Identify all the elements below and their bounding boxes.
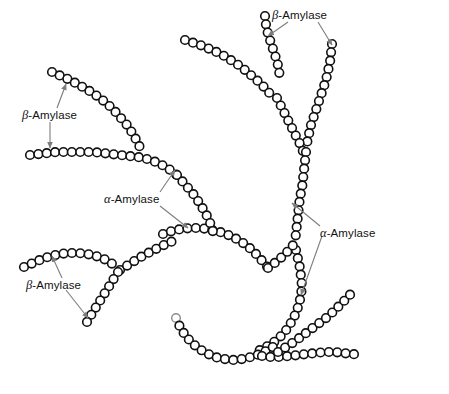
glucose-residue xyxy=(295,198,304,207)
glucose-chain xyxy=(83,268,123,327)
glucose-residue xyxy=(51,251,60,260)
polysaccharide-diagram-svg xyxy=(0,0,449,394)
glucose-residue xyxy=(93,148,102,157)
glucose-residue xyxy=(83,318,92,327)
enzyme-name-text: -Amylase xyxy=(327,227,376,239)
glucose-residue xyxy=(262,20,271,29)
glucose-residue xyxy=(134,153,143,162)
glucose-residue xyxy=(291,351,300,360)
glucose-residue xyxy=(175,225,184,234)
glucose-residue xyxy=(192,224,201,233)
enzyme-pointer-arrow xyxy=(57,84,66,108)
enzyme-label-alpha-amylase: α-Amylase xyxy=(104,192,159,207)
glucose-chain-layer xyxy=(20,12,359,365)
glucose-residue xyxy=(292,223,301,232)
enzyme-name-text: -Amylase xyxy=(32,279,81,291)
glucose-residue xyxy=(68,148,77,157)
glucose-residue xyxy=(237,355,246,364)
glucose-residue xyxy=(300,350,309,359)
glucose-residue xyxy=(101,149,110,158)
glucose-residue xyxy=(296,295,305,304)
glucose-residue xyxy=(341,349,350,358)
glucose-residue xyxy=(291,231,300,240)
glucose-chain xyxy=(181,36,274,97)
glucose-chain xyxy=(291,148,310,240)
glucose-residue xyxy=(76,249,85,258)
glucose-residue xyxy=(59,148,68,157)
glucose-residue xyxy=(26,151,35,160)
glucose-residue xyxy=(324,65,333,74)
glucose-residue xyxy=(108,259,117,268)
glucose-residue xyxy=(308,349,317,358)
glucose-residue xyxy=(167,227,176,236)
glucose-residue xyxy=(299,173,308,182)
glucose-residue xyxy=(51,148,60,157)
glucose-residue xyxy=(300,164,309,173)
glucose-residue xyxy=(301,156,310,165)
glucose-residue xyxy=(307,121,316,130)
glucose-residue xyxy=(265,88,274,97)
glucose-residue xyxy=(346,290,355,299)
glucose-residue xyxy=(167,237,176,246)
glucose-residue xyxy=(34,150,43,159)
glucose-residue xyxy=(42,149,51,158)
glucose-chain xyxy=(20,249,116,272)
glucose-residue xyxy=(333,348,342,357)
greek-symbol: α xyxy=(104,192,111,206)
glucose-residue xyxy=(43,253,52,262)
enzyme-label-beta-amylase: β-Amylase xyxy=(22,108,77,123)
glucose-residue xyxy=(258,352,267,361)
enzyme-pointer-arrow xyxy=(318,22,332,45)
glucose-residue xyxy=(288,241,297,250)
glucose-residue xyxy=(295,262,304,271)
glucose-residue xyxy=(327,48,336,57)
glucose-residue xyxy=(283,352,292,361)
amylase-diagram: β-Amylaseβ-Amylaseα-Amylaseα-Amylaseβ-Am… xyxy=(0,0,449,394)
glucose-chain xyxy=(116,237,176,274)
glucose-residue xyxy=(212,353,221,362)
glucose-chain xyxy=(273,94,307,155)
glucose-residue xyxy=(302,148,311,157)
glucose-residue xyxy=(271,52,280,61)
glucose-residue xyxy=(76,148,85,157)
glucose-chain xyxy=(26,148,181,179)
enzyme-name-text: -Amylase xyxy=(278,9,327,21)
glucose-residue xyxy=(135,142,144,151)
glucose-chain xyxy=(264,241,297,272)
glucose-residue xyxy=(229,356,238,365)
glucose-residue xyxy=(126,152,135,161)
enzyme-label-beta-amylase: β-Amylase xyxy=(272,8,327,23)
enzyme-name-text: -Amylase xyxy=(28,109,77,121)
glucose-residue xyxy=(261,12,270,21)
enzyme-pointer-arrow xyxy=(66,290,88,318)
glucose-residue xyxy=(298,181,307,190)
glucose-residue xyxy=(208,227,217,236)
glucose-residue xyxy=(84,250,93,259)
glucose-residue xyxy=(118,151,127,160)
glucose-residue xyxy=(350,350,359,359)
glucose-residue xyxy=(109,150,118,159)
enzyme-label-alpha-amylase: α-Amylase xyxy=(320,226,375,241)
glucose-residue xyxy=(273,60,282,69)
glucose-residue xyxy=(275,69,284,78)
glucose-residue xyxy=(221,355,230,364)
glucose-residue xyxy=(59,249,68,258)
glucose-residue xyxy=(293,214,302,223)
glucose-residue xyxy=(296,189,305,198)
greek-symbol: α xyxy=(320,226,327,240)
glucose-residue xyxy=(316,348,325,357)
enzyme-name-text: -Amylase xyxy=(111,193,160,205)
glucose-residue xyxy=(294,254,303,263)
glucose-residue xyxy=(305,129,314,138)
glucose-residue xyxy=(296,270,305,279)
enzyme-label-beta-amylase: β-Amylase xyxy=(26,278,81,293)
glucose-residue xyxy=(68,249,77,258)
glucose-residue xyxy=(326,56,335,65)
glucose-residue xyxy=(325,348,334,357)
enzyme-arrow-layer xyxy=(50,22,332,318)
glucose-residue xyxy=(84,148,93,157)
enzyme-pointer-arrow xyxy=(160,206,188,228)
glucose-chain xyxy=(303,40,336,146)
